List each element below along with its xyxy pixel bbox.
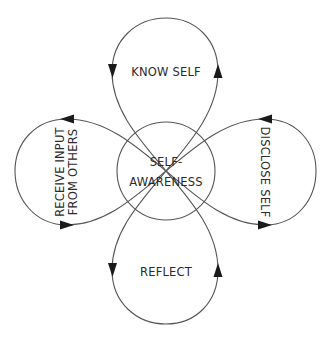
disclose-self-label: DISCLOSE SELF bbox=[258, 126, 272, 217]
arrow-right-icon bbox=[60, 221, 74, 230]
receive-input-label-line2: FROM OTHERS bbox=[66, 129, 80, 216]
reflect-loop bbox=[112, 171, 218, 324]
reflect-label: REFLECT bbox=[140, 265, 193, 279]
receive-input-label-line1: RECEIVE INPUT bbox=[53, 126, 67, 216]
arrow-left-icon bbox=[60, 115, 74, 124]
arrow-down-icon bbox=[108, 263, 117, 277]
arrow-up-icon bbox=[214, 64, 223, 78]
self-awareness-label-line1: SELF- bbox=[150, 155, 183, 169]
know-self-label: KNOW SELF bbox=[131, 65, 201, 79]
arrow-right-icon bbox=[258, 221, 272, 230]
self-awareness-label-line2: AWARENESS bbox=[129, 175, 202, 189]
receive-input-loop bbox=[15, 119, 166, 225]
arrow-up-icon bbox=[214, 263, 223, 277]
know-self-loop bbox=[112, 18, 218, 171]
arrow-down-icon bbox=[108, 64, 117, 78]
disclose-self-loop bbox=[166, 119, 316, 225]
self-awareness-cycle-diagram: KNOW SELF REFLECT DISCLOSE SELF RECEIVE … bbox=[0, 0, 329, 339]
arrow-left-icon bbox=[258, 115, 272, 124]
